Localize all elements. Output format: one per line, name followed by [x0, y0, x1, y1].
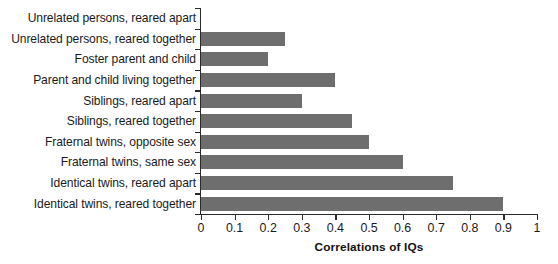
category-label: Identical twins, reared apart — [50, 177, 196, 190]
bar-track — [201, 173, 537, 194]
bar — [201, 197, 503, 211]
x-axis-tick — [403, 215, 404, 220]
chart-row: Siblings, reared together — [0, 111, 558, 132]
bar — [201, 135, 369, 149]
chart-row: Foster parent and child — [0, 49, 558, 70]
chart-row: Unrelated persons, reared together — [0, 29, 558, 50]
category-label: Siblings, reared together — [67, 115, 196, 128]
x-axis-tick — [369, 215, 370, 220]
x-axis-tick-label: 0.6 — [394, 221, 411, 235]
category-label: Parent and child living together — [33, 74, 196, 87]
bar-track — [201, 111, 537, 132]
bar — [201, 94, 302, 108]
bar-track — [201, 90, 537, 111]
bar — [201, 176, 453, 190]
bar — [201, 52, 268, 66]
bar-track — [201, 152, 537, 173]
x-axis-tick-label: 0.4 — [327, 221, 344, 235]
x-axis-tick-label: 1 — [534, 221, 541, 235]
x-axis-tick — [436, 215, 437, 220]
category-label: Siblings, reared apart — [83, 94, 196, 107]
bar-track — [201, 8, 537, 29]
x-axis-tick-label: 0.5 — [360, 221, 377, 235]
bar-track — [201, 29, 537, 50]
chart-row: Fraternal twins, same sex — [0, 152, 558, 173]
x-axis-tick-label: 0.2 — [260, 221, 277, 235]
category-label: Foster parent and child — [75, 53, 196, 66]
y-axis-tick — [195, 49, 201, 50]
bar-track — [201, 70, 537, 91]
y-axis-tick — [195, 90, 201, 91]
x-axis-tick — [537, 215, 538, 220]
bar — [201, 73, 335, 87]
category-label: Unrelated persons, reared together — [11, 32, 196, 45]
chart-row: Identical twins, reared together — [0, 193, 558, 214]
y-axis-tick — [195, 152, 201, 153]
x-axis-tick — [470, 215, 471, 220]
category-label: Unrelated persons, reared apart — [28, 12, 196, 25]
y-axis-tick — [195, 29, 201, 30]
y-axis-tick — [195, 111, 201, 112]
category-label: Identical twins, reared together — [34, 197, 196, 210]
y-axis-tick — [195, 132, 201, 133]
bar — [201, 114, 352, 128]
category-label: Fraternal twins, same sex — [61, 156, 196, 169]
x-axis-tick — [201, 215, 202, 220]
y-axis-tick — [195, 173, 201, 174]
bar — [201, 32, 285, 46]
y-axis-tick — [195, 193, 201, 194]
y-axis-tick — [195, 8, 201, 9]
x-axis-tick-label: 0 — [198, 221, 205, 235]
x-axis-tick-label: 0.8 — [461, 221, 478, 235]
bar-track — [201, 193, 537, 214]
bar-chart: Unrelated persons, reared apartUnrelated… — [0, 0, 558, 264]
chart-row: Identical twins, reared apart — [0, 173, 558, 194]
bar-track — [201, 132, 537, 153]
x-axis-tick-label: 0.3 — [293, 221, 310, 235]
x-axis-tick — [235, 215, 236, 220]
x-axis-tick — [335, 215, 336, 220]
chart-row: Fraternal twins, opposite sex — [0, 132, 558, 153]
chart-row: Unrelated persons, reared apart — [0, 8, 558, 29]
chart-row: Siblings, reared apart — [0, 90, 558, 111]
x-axis-tick — [302, 215, 303, 220]
chart-rows: Unrelated persons, reared apartUnrelated… — [0, 8, 558, 214]
x-axis-tick-label: 0.7 — [428, 221, 445, 235]
x-axis-tick-label: 0.1 — [226, 221, 243, 235]
bar — [201, 155, 403, 169]
x-axis-tick-label: 0.9 — [495, 221, 512, 235]
chart-row: Parent and child living together — [0, 70, 558, 91]
x-axis-tick — [503, 215, 504, 220]
x-axis-title: Correlations of IQs — [201, 240, 537, 254]
bar-track — [201, 49, 537, 70]
category-label: Fraternal twins, opposite sex — [45, 135, 196, 148]
x-axis-tick — [268, 215, 269, 220]
y-axis-tick — [195, 70, 201, 71]
